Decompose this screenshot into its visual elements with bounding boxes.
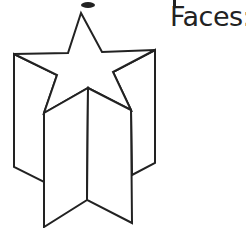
star-prism-figure [0, 0, 246, 228]
front-left-face [44, 88, 88, 227]
front-right-face [87, 88, 132, 223]
